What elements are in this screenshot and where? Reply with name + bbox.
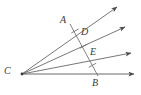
- tick-mark-EB: [89, 63, 96, 67]
- figure-canvas: [0, 0, 141, 95]
- point-label-D: D: [81, 27, 88, 37]
- vertex-point-C: [21, 73, 24, 76]
- ray-CE: [22, 53, 131, 74]
- point-label-B: B: [92, 78, 98, 88]
- point-label-A: A: [60, 15, 66, 25]
- point-label-E: E: [90, 47, 96, 57]
- ray-CD: [22, 27, 125, 74]
- tick-mark-AD: [71, 29, 78, 33]
- ray-CA: [22, 7, 117, 74]
- point-label-C: C: [4, 66, 11, 76]
- geometry-figure: A D E B C: [0, 0, 141, 95]
